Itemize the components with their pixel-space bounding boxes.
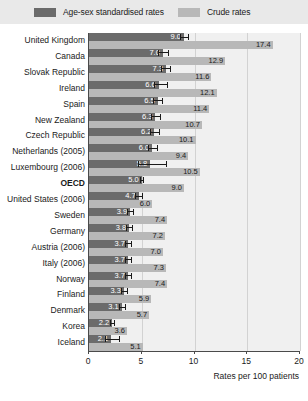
- chart-row: Spain11.46.5: [89, 97, 300, 113]
- error-bar: [125, 257, 132, 263]
- x-axis-tick: [246, 351, 247, 354]
- bar-value-crude: 17.4: [256, 41, 271, 49]
- category-label: Spain: [63, 100, 85, 109]
- bar-value-standardised: 3.3: [110, 287, 120, 295]
- chart-row: Sweden7.43.9: [89, 208, 300, 224]
- chart-row: Netherlands (2005)9.46.0: [89, 144, 300, 160]
- chart-row: New Zealand10.76.3: [89, 113, 300, 129]
- error-bar-cap-low: [148, 145, 149, 151]
- error-bar: [135, 193, 142, 199]
- error-bar-cap-low: [180, 34, 181, 40]
- error-bar: [138, 161, 168, 167]
- error-bar-cap-high: [133, 209, 134, 215]
- error-bar-cap-high: [131, 273, 132, 279]
- error-bar-cap-high: [160, 114, 161, 120]
- error-bar: [153, 98, 162, 104]
- error-bar-cap-low: [153, 98, 154, 104]
- legend-label-crude: Crude rates: [207, 7, 250, 17]
- bar-value-standardised: 4.7: [125, 192, 135, 200]
- error-bar-cap-high: [167, 82, 168, 88]
- chart-row: Luxembourg (2006)10.55.8: [89, 160, 300, 176]
- chart-row: Slovak Republic11.67.3: [89, 65, 300, 81]
- bar-value-crude: 7.0: [150, 248, 160, 256]
- bar-value-crude: 7.2: [153, 232, 163, 240]
- error-bar: [125, 273, 132, 279]
- error-bar-cap-low: [125, 273, 126, 279]
- error-bar-cap-low: [135, 193, 136, 199]
- chart-row: Austria (2006)7.03.7: [89, 240, 300, 256]
- error-bar-cap-high: [168, 50, 169, 56]
- bar-value-standardised: 3.7: [115, 272, 125, 280]
- chart-row: Denmark5.73.1: [89, 303, 300, 319]
- error-bar: [105, 336, 120, 342]
- bar-value-standardised: 2.2: [99, 319, 109, 327]
- bar-crude: [89, 184, 184, 192]
- chart-row: Finland5.93.3: [89, 287, 300, 303]
- bar-value-crude: 6.0: [140, 200, 150, 208]
- error-bar-cap-low: [127, 209, 128, 215]
- error-bar-cap-high: [162, 98, 163, 104]
- error-bar-cap-high: [119, 336, 120, 342]
- category-label: Sweden: [54, 211, 85, 220]
- chart-row: Italy (2006)7.33.7: [89, 256, 300, 272]
- category-label: Germany: [50, 227, 85, 236]
- error-bar-cap-low: [161, 66, 162, 72]
- error-bar-cap-low: [158, 50, 159, 56]
- bar-value-crude: 10.1: [179, 136, 194, 144]
- bar-value-crude: 5.7: [137, 311, 147, 319]
- error-bar-cap-high: [143, 177, 144, 183]
- error-bar-cap-low: [151, 114, 152, 120]
- x-axis-tick-label: 0: [86, 356, 91, 366]
- bar-value-crude: 9.4: [176, 152, 186, 160]
- category-label: New Zealand: [35, 116, 85, 125]
- category-label: Luxembourg (2006): [11, 163, 85, 172]
- x-axis-tick: [141, 351, 142, 354]
- bar-value-standardised: 3.1: [108, 303, 118, 311]
- error-bar-cap-low: [125, 257, 126, 263]
- category-label: Italy (2006): [42, 259, 85, 268]
- error-bar: [148, 145, 157, 151]
- bar-value-crude: 3.6: [115, 327, 125, 335]
- error-bar-cap-high: [157, 145, 158, 151]
- bar-value-crude: 5.1: [130, 343, 140, 351]
- x-axis-tick-label: 15: [242, 356, 251, 366]
- category-label: OECD: [60, 179, 85, 188]
- error-bar-cap-low: [140, 177, 141, 183]
- bar-value-crude: 7.4: [155, 280, 165, 288]
- bar-value-crude: 11.6: [195, 73, 209, 81]
- error-bar-cap-low: [150, 129, 151, 135]
- chart-row: Ireland12.16.6: [89, 81, 300, 97]
- error-bar-cap-high: [188, 34, 189, 40]
- error-bar-cap-high: [114, 320, 115, 326]
- error-bar-cap-low: [138, 161, 139, 167]
- error-bar: [161, 66, 172, 72]
- legend-swatch-standardised: [34, 8, 56, 17]
- error-bar-cap-high: [166, 161, 167, 167]
- plot-area: United Kingdom17.49.0Canada12.97.0Slovak…: [88, 33, 300, 351]
- bar-value-standardised: 3.7: [115, 240, 125, 248]
- error-bar-cap-low: [125, 241, 126, 247]
- x-axis-tick: [299, 351, 300, 354]
- error-bar: [110, 320, 115, 326]
- bar-value-standardised: 3.7: [115, 256, 125, 264]
- error-bar-cap-high: [142, 193, 143, 199]
- bar-value-crude: 10.7: [185, 121, 200, 129]
- error-bar-cap-low: [110, 320, 111, 326]
- category-label: United Kingdom: [25, 36, 85, 45]
- error-bar: [151, 114, 160, 120]
- x-axis-title: Rates per 100 patients: [213, 371, 299, 381]
- error-bar: [180, 34, 189, 40]
- error-bar: [140, 177, 144, 183]
- bar-value-crude: 7.3: [154, 264, 164, 272]
- category-label: Canada: [55, 52, 85, 61]
- category-label: Iceland: [58, 338, 85, 347]
- bar-value-standardised: 3.8: [116, 224, 126, 232]
- category-label: Korea: [62, 322, 85, 331]
- error-bar: [125, 241, 132, 247]
- error-bar: [119, 304, 126, 310]
- error-bar-cap-high: [132, 225, 133, 231]
- error-bar-cap-high: [170, 66, 171, 72]
- error-bar: [127, 209, 134, 215]
- error-bar-cap-low: [105, 336, 106, 342]
- legend-entry-standardised: Age-sex standardised rates: [34, 6, 164, 18]
